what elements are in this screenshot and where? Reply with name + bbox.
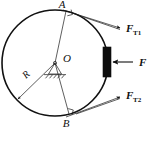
label-force-t2-subscript: T2 (133, 96, 142, 104)
tension-band-lower-b (76, 99, 120, 115)
label-radius-r: R (19, 68, 32, 81)
support-ground-hatching (46, 75, 65, 79)
label-force-t1-subscript: T1 (133, 29, 142, 37)
figure-container: A B O R F T1 F F T2 (0, 0, 159, 141)
physics-diagram-svg: A B O R F T1 F F T2 (0, 0, 159, 141)
radius-line-to-b (55, 63, 69, 114)
label-center-o: O (63, 52, 71, 64)
label-force-pad: F (138, 56, 147, 68)
brake-pad-block (103, 47, 111, 77)
label-point-b: B (63, 117, 70, 129)
label-point-a: A (58, 0, 66, 10)
tension-band-upper-a (72, 13, 120, 30)
